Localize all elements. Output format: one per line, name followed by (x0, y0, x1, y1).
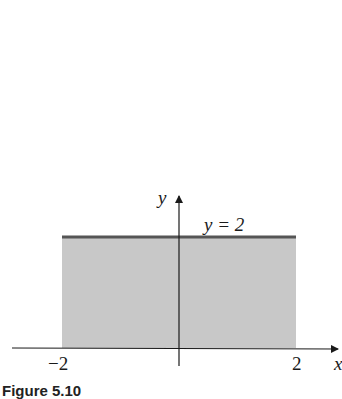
figure-caption: Figure 5.10 (2, 382, 81, 399)
tick-label-2: 2 (292, 354, 302, 373)
x-axis (12, 348, 338, 349)
y-axis-label: y (158, 188, 166, 207)
curve-label: y = 2 (204, 215, 244, 234)
x-axis-label: x (334, 354, 342, 373)
tick-label-neg2: −2 (48, 354, 68, 373)
